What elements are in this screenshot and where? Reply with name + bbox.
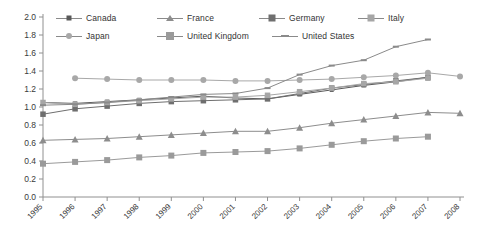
data-point-circle	[265, 78, 271, 84]
data-point-square	[425, 134, 431, 140]
x-axis-tick-label: 1997	[90, 202, 109, 221]
data-point-dash	[265, 87, 271, 89]
y-axis-tick-label: 1.0	[24, 102, 36, 112]
data-point-circle	[329, 76, 335, 82]
data-point-circle	[297, 77, 303, 83]
data-point-dash	[361, 59, 367, 61]
data-point-square	[329, 142, 335, 148]
data-point-square	[168, 153, 174, 159]
x-axis-tick-label: 2000	[186, 202, 205, 221]
data-point-dash	[72, 103, 78, 105]
data-point-dash	[168, 96, 174, 98]
data-point-square	[361, 81, 367, 87]
y-axis-tick-label: 1.4	[24, 66, 36, 76]
x-axis-tick-label: 2005	[346, 202, 365, 221]
y-axis-tick-label: 0.2	[24, 174, 36, 184]
x-axis-tick-label: 1995	[25, 202, 44, 221]
data-point-square	[40, 111, 46, 117]
x-axis-tick-label: 2006	[378, 202, 397, 221]
y-axis-tick-label: 0.4	[24, 156, 36, 166]
data-point-circle	[72, 75, 78, 81]
data-point-dash	[425, 39, 431, 41]
y-axis-tick-label: 1.2	[24, 84, 36, 94]
x-axis-tick-label: 1998	[122, 202, 141, 221]
y-axis-tick-label: 1.6	[24, 48, 36, 58]
data-point-square	[393, 79, 399, 85]
x-axis-tick-labels: 1995199619971998199920002001200220032004…	[25, 202, 461, 221]
data-point-dash	[329, 65, 335, 67]
y-axis-tick-label: 2.0	[24, 12, 36, 22]
data-point-dash	[136, 99, 142, 101]
x-axis-tick-label: 2003	[282, 202, 301, 221]
data-point-square	[297, 89, 303, 95]
data-point-square	[265, 148, 271, 154]
x-axis-tick-label: 2008	[442, 202, 461, 221]
y-axis-tick-label: 0.0	[24, 192, 36, 202]
chart-container: Canada France Germany Italy Japan United…	[0, 0, 499, 234]
data-point-circle	[393, 73, 399, 79]
data-point-circle	[104, 76, 110, 82]
data-point-circle	[232, 78, 238, 84]
data-point-circle	[200, 77, 206, 83]
data-point-circle	[136, 77, 142, 83]
data-point-square	[136, 154, 142, 160]
y-axis-tick-label: 0.6	[24, 138, 36, 148]
data-point-circle	[457, 73, 463, 79]
x-axis-tick-label: 2004	[314, 202, 333, 221]
data-point-square	[425, 75, 431, 81]
data-point-square	[104, 157, 110, 163]
y-axis-tick-label: 0.8	[24, 120, 36, 130]
data-point-square	[40, 161, 46, 167]
chart-plot-area: 0.00.20.40.60.81.01.21.41.61.82.0 199519…	[0, 0, 499, 234]
data-point-square	[72, 159, 78, 165]
data-point-square	[297, 145, 303, 151]
data-point-square	[200, 150, 206, 156]
data-point-square	[329, 85, 335, 91]
data-point-square	[232, 149, 238, 155]
data-point-circle	[425, 70, 431, 76]
x-axis-tick-label: 1999	[154, 202, 173, 221]
data-point-circle	[168, 77, 174, 83]
y-axis-tick-labels: 0.00.20.40.60.81.01.21.41.61.82.0	[24, 12, 36, 202]
chart-axes	[39, 14, 464, 201]
data-point-square	[361, 138, 367, 144]
data-point-dash	[297, 74, 303, 76]
x-axis-tick-label: 1996	[58, 202, 77, 221]
data-point-square	[233, 94, 239, 100]
data-point-dash	[200, 93, 206, 95]
data-point-dash	[232, 93, 238, 95]
data-point-dash	[393, 46, 399, 48]
data-point-square	[265, 93, 271, 99]
x-axis-tick-label: 2007	[410, 202, 429, 221]
data-point-circle	[361, 74, 367, 80]
x-axis-tick-label: 2001	[218, 202, 237, 221]
x-axis-tick-label: 2002	[250, 202, 269, 221]
y-axis-tick-label: 1.8	[24, 30, 36, 40]
data-point-dash	[40, 104, 46, 106]
data-point-square	[393, 136, 399, 142]
series-japan	[72, 70, 463, 84]
data-point-dash	[104, 102, 110, 104]
chart-series-group	[40, 39, 464, 167]
